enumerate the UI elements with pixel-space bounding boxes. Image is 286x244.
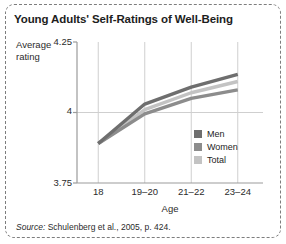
x-tick-0: 18 (75, 186, 121, 197)
legend-label-women: Women (207, 142, 238, 152)
x-tick-2: 21–22 (168, 186, 214, 197)
y-tick-bottom: 3.75 (38, 178, 72, 188)
x-tick-1: 19–20 (122, 186, 168, 197)
x-tick-3: 23–24 (215, 186, 261, 197)
figure-container: Young Adults' Self-Ratings of Well-Being… (0, 0, 286, 244)
x-axis-label: Age (77, 203, 263, 214)
y-tick-mid: 4 (38, 106, 72, 116)
legend-swatch-total (194, 156, 202, 164)
source-note: Source: Schulenberg et al., 2005, p. 424… (16, 222, 171, 232)
source-citation: Schulenberg et al., 2005, p. 424. (45, 222, 170, 232)
legend-swatch-men (194, 130, 202, 138)
legend-label-total: Total (207, 155, 226, 165)
source-keyword: Source: (16, 222, 45, 232)
legend-item-women: Women (194, 141, 238, 153)
legend-label-men: Men (207, 129, 225, 139)
legend-swatch-women (194, 143, 202, 151)
y-tick-top: 4.25 (38, 37, 72, 47)
legend-item-men: Men (194, 128, 238, 140)
legend-item-total: Total (194, 154, 238, 166)
chart-legend: Men Women Total (194, 128, 238, 167)
plot-area: Average rating 4.25 4 3.75 18 19–20 21–2… (0, 0, 286, 244)
